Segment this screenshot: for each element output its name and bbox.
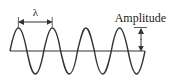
wavelength-indicator: λ [18, 6, 52, 27]
amplitude-label: Amplitude [115, 11, 166, 25]
wave-diagram: λ Amplitude [0, 0, 178, 84]
wavelength-label: λ [33, 6, 39, 18]
